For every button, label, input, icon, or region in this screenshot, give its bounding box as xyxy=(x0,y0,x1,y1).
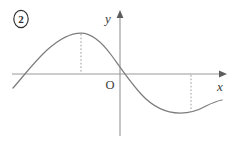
circled-number-text: 2 xyxy=(18,13,24,25)
x-axis-label: x xyxy=(216,79,223,94)
y-axis-label: y xyxy=(103,11,111,26)
y-axis-arrow-icon xyxy=(117,10,124,18)
origin-label: O xyxy=(105,78,114,92)
figure-container: y x O 2 xyxy=(0,0,235,150)
x-axis-arrow-icon xyxy=(219,71,227,78)
circled-number-icon: 2 xyxy=(14,10,28,27)
graph-canvas: y x O 2 xyxy=(0,0,235,150)
